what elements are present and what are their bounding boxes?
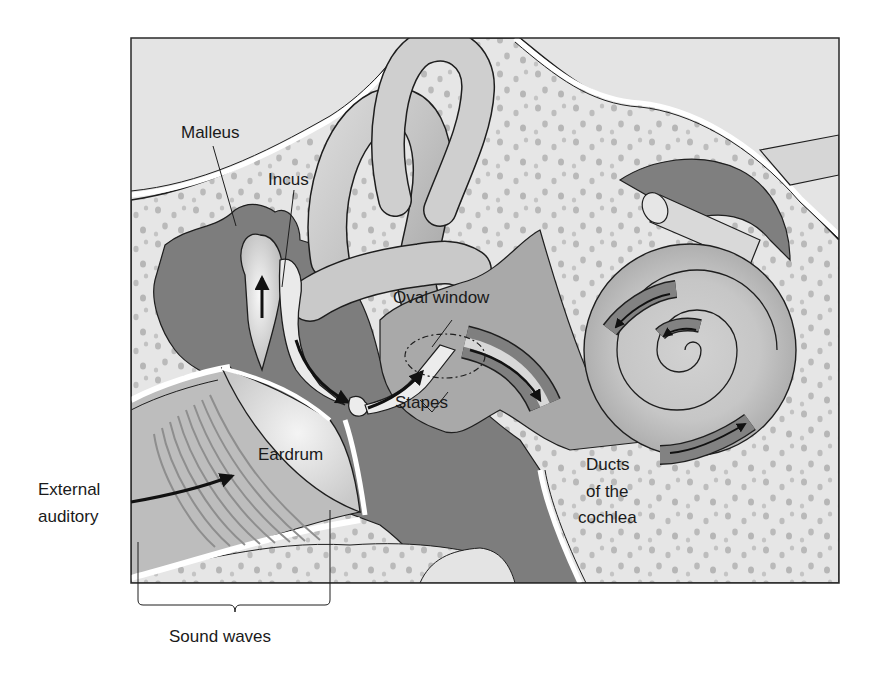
illustration-frame — [131, 34, 839, 583]
label-eardrum: Eardrum — [258, 445, 323, 464]
label-external-line1: External — [38, 480, 100, 499]
label-malleus: Malleus — [181, 123, 240, 142]
label-stapes: Stapes — [395, 393, 448, 412]
label-ducts-line3: cochlea — [578, 508, 637, 527]
label-ducts-line2: of the — [586, 482, 629, 501]
label-incus: Incus — [268, 170, 309, 189]
label-ducts-line1: Ducts — [586, 455, 629, 474]
label-oval-window: Oval window — [393, 288, 490, 307]
ear-diagram: Malleus Incus Oval window Stapes Eardrum… — [0, 0, 875, 677]
label-external-line2: auditory — [38, 507, 99, 526]
label-sound-waves: Sound waves — [169, 627, 271, 646]
